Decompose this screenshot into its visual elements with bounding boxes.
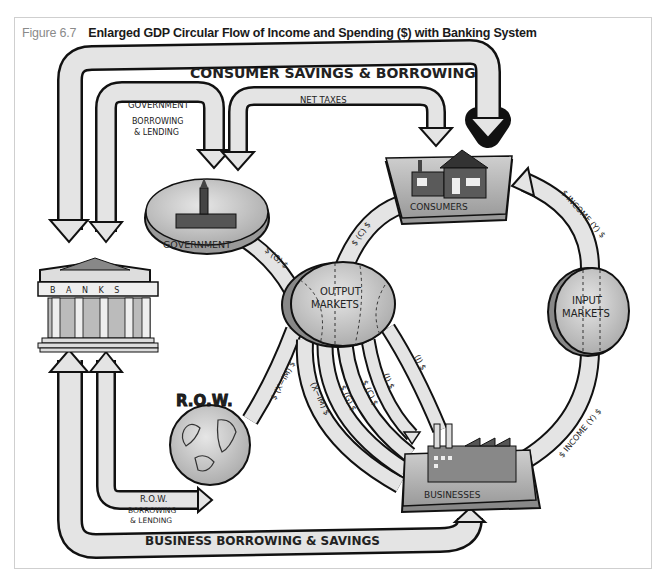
row-label: R.O.W. bbox=[176, 392, 233, 410]
consumers-label: CONSUMERS bbox=[410, 202, 468, 212]
income-top-band: $ INCOME (Y) $ bbox=[512, 168, 607, 268]
government-borrowing-label-1: BORROWING bbox=[132, 117, 184, 126]
banks-node: B A N K S bbox=[38, 258, 158, 352]
row-borrowing-label-2: & LENDING bbox=[130, 516, 172, 525]
business-borrowing-label: BUSINESS BORROWING & SAVINGS bbox=[145, 534, 380, 548]
consumers-node: CONSUMERS bbox=[386, 150, 512, 224]
output-markets-label-2: MARKETS bbox=[311, 299, 359, 310]
businesses-label: BUSINESSES bbox=[424, 490, 481, 500]
businesses-node: BUSINESSES bbox=[402, 424, 540, 512]
government-node: GOVERNMENT bbox=[145, 178, 269, 254]
row-flow-label: R.O.W. bbox=[140, 494, 167, 504]
input-markets-node: INPUT MARKETS bbox=[548, 268, 629, 356]
government-flow-label: GOVERNMENT bbox=[128, 100, 190, 110]
income-bottom-band: $ INCOME (Y) $ bbox=[525, 350, 603, 460]
government-spending-band: $ (G) $ bbox=[246, 240, 292, 290]
input-markets-label-2: MARKETS bbox=[562, 308, 610, 319]
consumer-savings-label: CONSUMER SAVINGS & BORROWING bbox=[190, 65, 476, 81]
circular-flow-diagram: CONSUMER SAVINGS & BORROWING GOVERNMENT … bbox=[0, 0, 667, 581]
government-borrowing-label-2: & LENDING bbox=[134, 128, 179, 137]
government-label: GOVERNMENT bbox=[163, 239, 231, 250]
row-node: R.O.W. bbox=[170, 392, 250, 485]
banks-label: B A N K S bbox=[50, 286, 123, 295]
output-markets-label-1: OUTPUT bbox=[320, 286, 362, 297]
row-borrowing-label-1: BORROWING bbox=[128, 506, 176, 515]
net-taxes-label: NET TAXES bbox=[300, 95, 347, 105]
output-markets-node: OUTPUT MARKETS bbox=[282, 262, 395, 347]
input-markets-label-1: INPUT bbox=[572, 295, 603, 306]
net-exports-band: $ (X−IM) $ bbox=[250, 330, 297, 420]
